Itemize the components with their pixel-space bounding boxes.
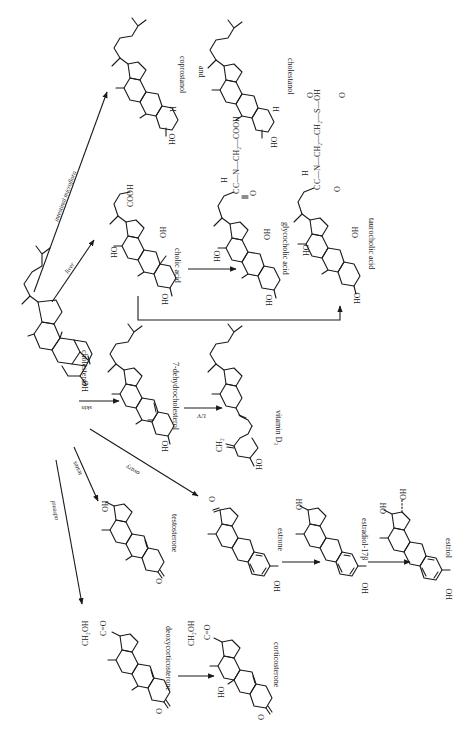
vitamin-d3-ch2: CH₂ xyxy=(215,438,224,452)
estradiol-label: estradiol-17β xyxy=(360,518,369,560)
glycocholic-chain: C—N—CH₂—COOH xyxy=(232,116,241,188)
cholic-acid-cooh: COOH xyxy=(126,184,135,207)
taurocholic-o-bottom: O xyxy=(338,92,347,98)
testosterone-structure xyxy=(102,502,164,578)
corticosterone-structure xyxy=(210,638,272,714)
taurocholic-acid-structure xyxy=(294,188,360,294)
estriol-structure xyxy=(380,500,450,580)
and-label: and xyxy=(197,66,206,78)
glycocholic-h: H xyxy=(220,177,229,183)
cholic-acid-ho-12: HO xyxy=(110,246,119,258)
arrow-liver xyxy=(52,240,94,302)
cholestanol-ho: HO xyxy=(270,136,279,148)
coprostanol-structure xyxy=(112,18,178,136)
cholic-acid-ho-3: HO xyxy=(161,293,170,305)
estriol-oh-16: OH xyxy=(399,488,408,500)
arrow-label-uv: UV xyxy=(196,413,206,420)
corticosterone-ho: HO xyxy=(217,686,226,698)
glycocholic-c: C xyxy=(232,189,241,194)
corticosterone-co: C=O xyxy=(203,624,212,640)
cholic-acid-label: cholic acid xyxy=(173,248,182,283)
dehydrocholesterol-structure xyxy=(108,324,174,444)
cholestanol-h: H xyxy=(272,106,281,112)
arrow-ovary xyxy=(90,429,198,496)
cholic-acid-structure xyxy=(110,192,176,296)
taurocholic-o-top: O xyxy=(306,92,315,98)
glycocholic-ho-3: HO xyxy=(265,294,274,306)
estradiol-ho: HO xyxy=(361,582,370,594)
arrow-label-ovary: ovary xyxy=(124,464,140,478)
corticosterone-label: corticosterone xyxy=(272,642,281,688)
coprostanol-h: H xyxy=(169,106,178,112)
arrow-label-skin: skin xyxy=(82,405,92,412)
taurocholic-ho-3: HO xyxy=(353,292,362,304)
deoxycorticosterone-label: deoxycorticosterone xyxy=(164,626,173,691)
estrone-label: estrone xyxy=(276,528,285,552)
deoxycorticosterone-co: C=O xyxy=(99,620,108,636)
vitamin-d3-ho: HO xyxy=(255,458,264,470)
dehydrocholesterol-ho: HO xyxy=(161,440,170,452)
taurocholic-chain: C—N—CH₂—CH₂—S—OH xyxy=(313,89,322,184)
estriol-label: estriol xyxy=(444,538,453,559)
cholesterol-metabolism-diagram: HO cholesterol H HO coprostanol and H HO… xyxy=(0,0,466,738)
cholesterol-label: cholesterol xyxy=(80,350,89,386)
dehydrocholesterol-label: 7-dehydrocholesterol xyxy=(171,362,180,431)
cholic-acid-oh-7: OH xyxy=(159,226,168,238)
coprostanol-ho: HO xyxy=(168,133,177,145)
taurocholic-h: H xyxy=(301,170,310,176)
estrone-structure xyxy=(208,508,278,576)
testosterone-label: testosterone xyxy=(170,514,179,553)
corticosterone-o: O xyxy=(257,714,266,720)
estriol-ho: HO xyxy=(445,588,454,600)
estrone-o: O xyxy=(208,496,217,502)
arrow-adrenal xyxy=(56,460,82,604)
taurocholic-c: C xyxy=(313,185,322,190)
taurocholic-oh-7: OH xyxy=(351,226,360,238)
arrow-label-adrenal: adrenal xyxy=(49,500,59,521)
deoxycorticosterone-ch2oh: CH₂OH xyxy=(81,620,90,646)
corticosterone-ch2oh: CH₂OH xyxy=(187,620,196,646)
arrow-label-liver: liver xyxy=(63,260,76,274)
deoxycorticosterone-o: O xyxy=(155,708,164,714)
glycocholic-double-bond xyxy=(242,196,248,198)
cholestanol-label: cholestanol xyxy=(286,58,295,95)
taurocholic-acid-label: taurocholic acid xyxy=(367,218,376,269)
estrone-ho: HO xyxy=(273,580,282,592)
testosterone-oh: OH xyxy=(101,500,110,512)
vitamin-d3-label: vitamin D₃ xyxy=(274,410,283,445)
estradiol-structure xyxy=(296,506,366,576)
glycocholic-oh-7: OH xyxy=(263,228,272,240)
glycocholic-acid-structure xyxy=(214,192,280,298)
cholestanol-structure xyxy=(208,20,274,138)
coprostanol-label: coprostanol xyxy=(178,56,187,94)
glycocholic-acid-label: glycocholic acid xyxy=(281,222,290,275)
glycocholic-o: O xyxy=(249,190,258,196)
estriol-oh-17: OH xyxy=(379,502,388,514)
testosterone-o: O xyxy=(155,578,164,584)
taurocholic-ho-12: HO xyxy=(302,244,311,256)
glycocholic-ho-12: HO xyxy=(213,250,222,262)
estradiol-oh: OH xyxy=(295,498,304,510)
taurocholic-o: O xyxy=(333,186,342,192)
deoxycorticosterone-structure xyxy=(108,632,170,708)
arrow-label-intestinal-microflora: intestinal microflora xyxy=(52,170,77,223)
